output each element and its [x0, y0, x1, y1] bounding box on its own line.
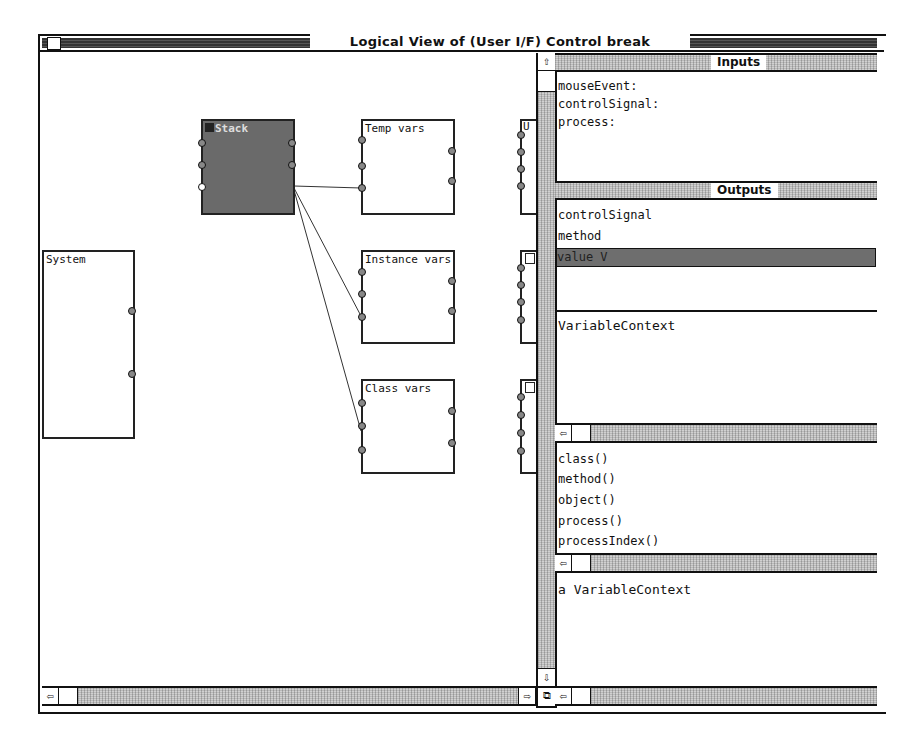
- port-icon[interactable]: [448, 277, 456, 285]
- output-item[interactable]: method: [558, 228, 601, 244]
- scroll-left-button[interactable]: ⇦: [555, 688, 572, 704]
- canvas-vertical-scrollbar[interactable]: ⇧ ⇩: [536, 53, 557, 686]
- scroll-left-button[interactable]: ⇦: [42, 688, 59, 704]
- output-item-selected[interactable]: value V: [556, 248, 876, 267]
- node-label: System: [46, 254, 86, 266]
- node-label: Stack: [215, 123, 248, 135]
- port-icon[interactable]: [358, 162, 366, 170]
- node-stub-icon: [525, 382, 535, 393]
- arrow-left-icon: ⇦: [559, 688, 566, 704]
- port-icon[interactable]: [358, 136, 366, 144]
- port-icon[interactable]: [448, 439, 456, 447]
- method-item[interactable]: method(): [558, 471, 616, 487]
- right-panel-horizontal-scrollbar[interactable]: ⇦: [555, 686, 877, 706]
- input-item[interactable]: mouseEvent:: [558, 78, 637, 94]
- arrow-left-icon: ⇦: [46, 688, 53, 704]
- port-icon[interactable]: [517, 182, 525, 190]
- port-icon[interactable]: [448, 177, 456, 185]
- port-icon[interactable]: [288, 161, 296, 169]
- inputs-header-label: Inputs: [711, 55, 766, 70]
- port-icon[interactable]: [517, 429, 525, 437]
- port-icon[interactable]: [448, 147, 456, 155]
- node-label: Instance vars: [365, 254, 451, 266]
- inspector-horizontal-scrollbar[interactable]: ⇦: [555, 553, 877, 573]
- grow-icon: ⧉: [543, 689, 551, 702]
- connection-lines: [0, 0, 919, 743]
- port-icon[interactable]: [517, 393, 525, 401]
- port-icon[interactable]: [358, 184, 366, 192]
- port-icon[interactable]: [448, 307, 456, 315]
- port-icon[interactable]: [128, 370, 136, 378]
- scroll-thumb[interactable]: [59, 688, 78, 704]
- port-icon[interactable]: [288, 139, 296, 147]
- port-icon[interactable]: [517, 165, 525, 173]
- scroll-thumb[interactable]: [572, 555, 591, 571]
- scroll-thumb[interactable]: [572, 425, 591, 441]
- canvas-horizontal-scrollbar[interactable]: ⇦ ⇨: [42, 686, 536, 706]
- node-system[interactable]: System: [42, 250, 135, 439]
- output-item[interactable]: controlSignal: [558, 207, 652, 223]
- scroll-up-button[interactable]: ⇧: [538, 53, 555, 71]
- port-icon[interactable]: [517, 131, 525, 139]
- port-icon[interactable]: [128, 307, 136, 315]
- port-icon[interactable]: [517, 264, 525, 272]
- port-icon[interactable]: [517, 281, 525, 289]
- node-temp-vars[interactable]: Temp vars: [361, 119, 455, 215]
- arrow-down-icon: ⇩: [543, 670, 550, 684]
- node-label: Temp vars: [365, 123, 425, 135]
- method-item[interactable]: processIndex(): [558, 533, 659, 549]
- port-icon[interactable]: [198, 183, 206, 191]
- port-icon[interactable]: [517, 298, 525, 306]
- port-icon[interactable]: [198, 139, 206, 147]
- arrow-up-icon: ⇧: [543, 54, 550, 68]
- node-stack[interactable]: Stack: [201, 119, 295, 215]
- scroll-down-button[interactable]: ⇩: [538, 668, 555, 686]
- method-item[interactable]: object(): [558, 492, 616, 508]
- arrow-left-icon: ⇦: [559, 425, 566, 441]
- port-icon[interactable]: [358, 422, 366, 430]
- node-stub-icon: [525, 253, 535, 264]
- scroll-left-button[interactable]: ⇦: [555, 555, 572, 571]
- port-icon[interactable]: [198, 161, 206, 169]
- arrow-right-icon: ⇨: [523, 688, 530, 704]
- node-class-vars[interactable]: Class vars: [361, 379, 455, 474]
- methods-horizontal-scrollbar[interactable]: ⇦: [555, 423, 877, 443]
- scroll-thumb[interactable]: [572, 688, 591, 704]
- port-icon[interactable]: [517, 148, 525, 156]
- context-class-name: VariableContext: [558, 318, 675, 334]
- port-icon[interactable]: [358, 268, 366, 276]
- scroll-right-button[interactable]: ⇨: [518, 688, 536, 704]
- input-item[interactable]: process:: [558, 114, 616, 130]
- port-icon[interactable]: [448, 407, 456, 415]
- input-item[interactable]: controlSignal:: [558, 96, 659, 112]
- port-icon[interactable]: [517, 447, 525, 455]
- inspector-value[interactable]: a VariableContext: [558, 582, 691, 598]
- panel-divider: [555, 310, 877, 312]
- node-label: Class vars: [365, 383, 431, 395]
- port-icon[interactable]: [517, 411, 525, 419]
- port-icon[interactable]: [358, 313, 366, 321]
- port-icon[interactable]: [358, 290, 366, 298]
- node-label: U: [523, 121, 530, 133]
- inputs-header: Inputs: [555, 53, 877, 72]
- outputs-header: Outputs: [555, 181, 877, 200]
- method-item[interactable]: process(): [558, 513, 623, 529]
- port-icon[interactable]: [358, 399, 366, 407]
- arrow-left-icon: ⇦: [559, 555, 566, 571]
- method-item[interactable]: class(): [558, 451, 609, 467]
- port-icon[interactable]: [358, 446, 366, 454]
- node-icon: [205, 123, 214, 132]
- grow-box[interactable]: ⧉: [536, 686, 557, 708]
- outputs-header-label: Outputs: [711, 183, 778, 198]
- scroll-left-button[interactable]: ⇦: [555, 425, 572, 441]
- node-instance-vars[interactable]: Instance vars: [361, 250, 455, 344]
- scroll-thumb[interactable]: [538, 71, 555, 92]
- port-icon[interactable]: [517, 316, 525, 324]
